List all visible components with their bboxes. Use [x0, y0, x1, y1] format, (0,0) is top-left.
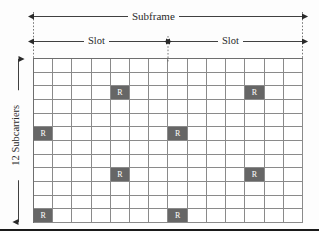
resource-element-cell: [53, 100, 72, 114]
resource-element-cell: [130, 141, 149, 155]
slot-label-second: Slot: [218, 36, 243, 47]
resource-element-cell: [188, 86, 207, 100]
resource-element-cell: [149, 127, 168, 141]
resource-element-cell: [226, 86, 245, 100]
resource-element-cell: [72, 73, 91, 87]
resource-element-cell: [92, 114, 111, 128]
resource-element-cell: [284, 127, 303, 141]
resource-grid: RRRRRRRR: [33, 58, 303, 223]
resource-element-cell: [168, 141, 187, 155]
resource-element-cell: [245, 100, 264, 114]
resource-element-cell: [226, 141, 245, 155]
resource-element-cell: [226, 114, 245, 128]
resource-element-cell: [149, 59, 168, 73]
resource-element-cell: [34, 155, 53, 169]
resource-element-cell: [284, 100, 303, 114]
resource-element-cell: [72, 209, 91, 223]
resource-element-cell: [111, 114, 130, 128]
subcarriers-axis-label: 12 Subcarriers: [9, 90, 24, 180]
resource-element-cell: [149, 141, 168, 155]
resource-element-cell: [188, 209, 207, 223]
resource-element-cell: [72, 86, 91, 100]
resource-element-cell: [265, 182, 284, 196]
resource-element-cell: [149, 155, 168, 169]
slot-label-first: Slot: [84, 36, 109, 47]
resource-element-cell: [130, 155, 149, 169]
reference-signal-cell: R: [245, 168, 264, 182]
resource-element-cell: [207, 209, 226, 223]
resource-element-cell: [168, 100, 187, 114]
resource-element-cell: [245, 114, 264, 128]
resource-element-cell: [72, 182, 91, 196]
resource-element-cell: [188, 127, 207, 141]
resource-element-cell: [149, 196, 168, 210]
resource-element-cell: [207, 182, 226, 196]
resource-grid-figure: Subframe Slot Slot 12 Subcarriers RRRRRR…: [0, 0, 319, 233]
resource-element-cell: [92, 141, 111, 155]
resource-element-cell: [207, 59, 226, 73]
resource-element-cell: [111, 196, 130, 210]
resource-element-cell: [92, 209, 111, 223]
resource-element-cell: [72, 59, 91, 73]
resource-element-cell: [34, 114, 53, 128]
resource-element-cell: [53, 155, 72, 169]
resource-element-cell: [34, 100, 53, 114]
resource-element-cell: [130, 168, 149, 182]
resource-element-cell: [207, 127, 226, 141]
resource-element-cell: [53, 209, 72, 223]
resource-element-cell: [245, 59, 264, 73]
resource-element-cell: [265, 141, 284, 155]
resource-element-cell: [72, 141, 91, 155]
resource-element-cell: [72, 155, 91, 169]
resource-element-cell: [207, 155, 226, 169]
resource-element-cell: [111, 100, 130, 114]
reference-signal-cell: R: [168, 209, 187, 223]
resource-element-cell: [207, 168, 226, 182]
resource-element-cell: [188, 168, 207, 182]
resource-element-cell: [111, 59, 130, 73]
reference-signal-cell: R: [34, 127, 53, 141]
resource-element-cell: [245, 155, 264, 169]
resource-element-cell: [168, 73, 187, 87]
resource-element-cell: [207, 141, 226, 155]
resource-element-cell: [34, 196, 53, 210]
reference-signal-cell: R: [34, 209, 53, 223]
resource-element-cell: [245, 196, 264, 210]
resource-element-cell: [245, 209, 264, 223]
resource-element-cell: [188, 196, 207, 210]
resource-element-cell: [130, 182, 149, 196]
resource-element-cell: [265, 100, 284, 114]
resource-element-cell: [34, 59, 53, 73]
resource-element-cell: [207, 86, 226, 100]
resource-element-cell: [188, 59, 207, 73]
resource-element-cell: [53, 127, 72, 141]
resource-element-cell: [34, 182, 53, 196]
resource-element-cell: [111, 209, 130, 223]
resource-element-cell: [92, 100, 111, 114]
resource-element-cell: [130, 209, 149, 223]
bottom-rule: [0, 229, 319, 231]
resource-element-cell: [53, 114, 72, 128]
resource-element-cell: [168, 182, 187, 196]
resource-element-cell: [265, 209, 284, 223]
resource-element-cell: [72, 168, 91, 182]
resource-element-cell: [284, 59, 303, 73]
reference-signal-cell: R: [168, 127, 187, 141]
resource-element-cell: [92, 182, 111, 196]
resource-element-cell: [53, 196, 72, 210]
resource-element-cell: [265, 127, 284, 141]
resource-element-cell: [188, 155, 207, 169]
resource-element-cell: [168, 59, 187, 73]
resource-element-cell: [72, 114, 91, 128]
resource-element-cell: [92, 127, 111, 141]
resource-element-cell: [245, 127, 264, 141]
resource-element-cell: [149, 100, 168, 114]
resource-element-cell: [130, 100, 149, 114]
resource-element-cell: [53, 59, 72, 73]
resource-element-cell: [168, 155, 187, 169]
resource-element-cell: [226, 196, 245, 210]
resource-element-cell: [111, 155, 130, 169]
resource-element-cell: [53, 182, 72, 196]
resource-element-cell: [111, 127, 130, 141]
resource-element-cell: [130, 86, 149, 100]
